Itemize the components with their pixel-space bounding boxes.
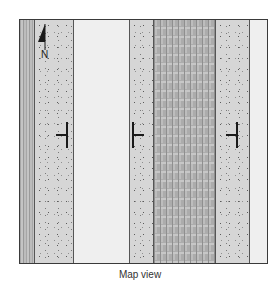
north-arrow: N	[37, 24, 51, 64]
strike-line	[236, 122, 238, 148]
strike-line	[66, 122, 68, 148]
rock-band-7	[249, 20, 268, 263]
north-arrow-icon	[37, 24, 51, 52]
map-view-frame: N	[19, 19, 268, 264]
dip-tick	[226, 134, 236, 136]
rock-band-5	[153, 20, 215, 263]
rock-band-3	[73, 20, 129, 263]
dip-tick	[56, 134, 66, 136]
rock-band-1	[20, 20, 34, 263]
north-label: N	[41, 50, 48, 60]
rock-band-6	[215, 20, 249, 263]
figure-caption: Map view	[0, 269, 280, 280]
dip-tick	[134, 134, 144, 136]
